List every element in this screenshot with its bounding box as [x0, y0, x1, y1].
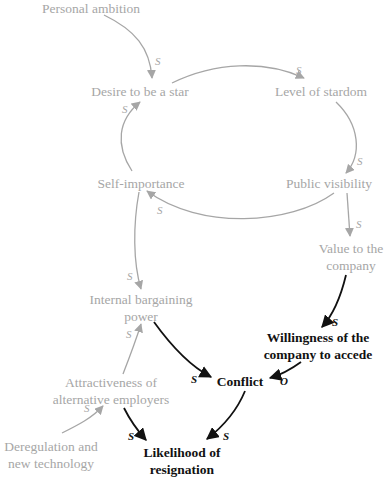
link-visibility-value	[347, 193, 350, 236]
polarity-bargaining-conflict: S	[191, 374, 197, 385]
node-internal-bargaining: Internal bargaining power	[90, 291, 193, 325]
polarity-willingness-conflict: O	[280, 376, 288, 387]
polarity-visibility-selfimportance: S	[157, 205, 163, 216]
polarity-desire-stardom: S	[296, 65, 302, 76]
node-attractiveness-line2: alternative employers	[53, 391, 170, 408]
node-desire-to-be-star: Desire to be a star	[91, 83, 188, 100]
polarity-selfimportance-desire: S	[122, 104, 128, 115]
node-public-visibility: Public visibility	[286, 175, 372, 192]
node-attractiveness: Attractiveness of alternative employers	[53, 374, 170, 408]
link-bargaining-conflict	[154, 322, 211, 377]
node-self-importance: Self-importance	[98, 175, 185, 192]
polarity-ambition-desire: S	[155, 56, 161, 67]
link-visibility-selfimportance	[147, 191, 334, 219]
node-likelihood-line2: resignation	[144, 461, 221, 478]
node-deregulation: Deregulation and new technology	[4, 438, 97, 472]
polarity-conflict-likelihood: S	[223, 431, 229, 442]
node-likelihood-line1: Likelihood of	[144, 444, 221, 461]
link-ambition-desire	[104, 15, 152, 78]
link-selfimportance-bargaining	[135, 192, 141, 289]
node-deregulation-line2: new technology	[4, 455, 97, 472]
polarity-selfimportance-bargaining: S	[127, 271, 133, 282]
node-level-of-stardom: Level of stardom	[275, 83, 367, 100]
node-bargaining-line1: Internal bargaining	[90, 291, 193, 308]
polarity-stardom-visibility: S	[357, 156, 363, 167]
node-likelihood-of-resignation: Likelihood of resignation	[144, 444, 221, 478]
node-value-to-company: Value to the company	[319, 240, 383, 274]
node-bargaining-line2: power	[90, 308, 193, 325]
polarity-visibility-value: S	[356, 219, 362, 230]
polarity-value-willingness: S	[332, 317, 338, 328]
node-personal-ambition: Personal ambition	[42, 0, 140, 17]
node-value-line1: Value to the	[319, 240, 383, 257]
node-value-line2: company	[319, 257, 383, 274]
polarity-attractiveness-likelihood: S	[128, 431, 134, 442]
polarity-attractiveness-bargaining: S	[126, 329, 132, 340]
polarity-deregulation-attractiveness: S	[84, 403, 90, 414]
node-deregulation-line1: Deregulation and	[4, 438, 97, 455]
link-stardom-visibility	[336, 102, 356, 173]
node-attractiveness-line1: Attractiveness of	[53, 374, 170, 391]
node-willingness: Willingness of the company to accede	[264, 329, 373, 363]
node-conflict: Conflict	[217, 373, 264, 390]
node-willingness-line2: company to accede	[264, 346, 373, 363]
node-willingness-line1: Willingness of the	[264, 329, 373, 346]
link-deregulation-attractiveness	[62, 406, 103, 433]
link-desire-stardom	[172, 66, 304, 83]
